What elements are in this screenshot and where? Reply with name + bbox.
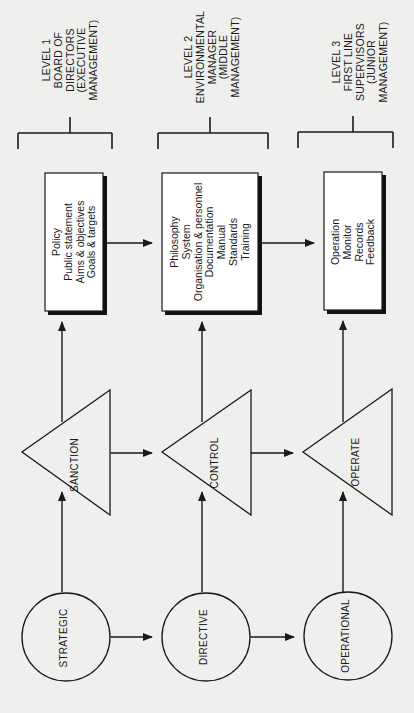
box-item: Monitor — [341, 219, 353, 265]
sanction-label: SANCTION — [69, 438, 80, 492]
control-label: CONTROL — [209, 438, 220, 489]
diagram-graphics — [0, 0, 414, 713]
operate-label: OPERATE — [350, 437, 361, 486]
box-item: Policy — [51, 201, 63, 284]
level-1-role-line: BOARD OF — [52, 20, 64, 101]
box-item: Standards — [228, 183, 240, 302]
level-3-box-content: Operation Monitor Records Feedback — [330, 219, 377, 265]
level-3-role-line: FIRST LINE — [342, 22, 354, 103]
box-item: Feedback — [365, 219, 377, 265]
box-item: Goals & targets — [86, 201, 98, 284]
level-1-box-content: Policy Public statement Aims & objective… — [51, 201, 98, 284]
level-2-header: LEVEL 2 ENVIRONMENTAL MANAGER (MIDDLE MA… — [183, 11, 242, 103]
level-2-role-line: ENVIRONMENTAL — [194, 11, 206, 103]
box-item: Training — [239, 183, 251, 302]
level-1-title: LEVEL 1 — [41, 20, 53, 101]
level-3-tier-line: MANAGEMENT) — [378, 22, 390, 103]
box-item: Public statement — [62, 201, 74, 284]
box-item: Philosophy — [169, 183, 181, 302]
level-1-tier-line: MANAGEMENT) — [88, 20, 100, 101]
level-2-tier-line: MANAGEMENT) — [230, 11, 242, 103]
box-item: Manual — [216, 183, 228, 302]
box-item: System — [181, 183, 193, 302]
level-2-box-content: Philosophy System Organisation & personn… — [169, 183, 251, 302]
directive-label: DIRECTIVE — [198, 609, 209, 665]
box-item: Operation — [330, 219, 342, 265]
level-3-bracket — [298, 116, 393, 148]
level-3-header: LEVEL 3 FIRST LINE SUPERVISORS (JUNIOR M… — [331, 22, 390, 103]
management-levels-diagram: LEVEL 1 BOARD OF DIRECTORS (EXECUTIVE MA… — [0, 0, 414, 713]
operate-triangle — [303, 389, 392, 515]
level-1-header: LEVEL 1 BOARD OF DIRECTORS (EXECUTIVE MA… — [41, 20, 100, 101]
control-triangle — [162, 390, 251, 515]
level-3-title: LEVEL 3 — [331, 22, 343, 103]
level-2-bracket — [158, 117, 268, 149]
strategic-label: STRATEGIC — [58, 608, 69, 667]
sanction-triangle — [22, 390, 110, 515]
level-1-bracket — [18, 117, 112, 149]
level-2-title: LEVEL 2 — [183, 11, 195, 103]
operational-label: OPERATIONAL — [340, 599, 351, 673]
